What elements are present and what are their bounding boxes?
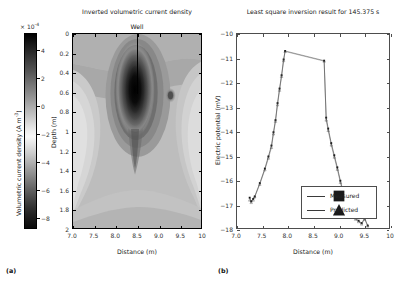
- line-plot-y-tick: [387, 34, 390, 35]
- contour-y-tick: [199, 152, 202, 153]
- line-plot-x-tick: [365, 226, 366, 229]
- legend-label-measured: Measured: [330, 192, 359, 199]
- line-plot-y-tick: [237, 132, 240, 133]
- line-plot-y-tick-label: −17: [216, 201, 233, 208]
- well-line: [137, 33, 138, 94]
- line-plot-x-tick: [314, 34, 315, 37]
- contour-y-tick: [199, 73, 202, 74]
- panel-a-title: Inverted volumetric current density: [82, 8, 192, 15]
- contour-x-tick: [95, 34, 96, 37]
- contour-y-tick-label: 0.6: [55, 88, 69, 95]
- line-plot-y-tick: [387, 181, 390, 182]
- contour-x-tick-label: 9.0: [154, 232, 164, 239]
- contour-y-tick: [199, 132, 202, 133]
- contour-x-tick-label: 7.5: [89, 232, 99, 239]
- line-plot-axes: Measured Predicted: [236, 33, 390, 229]
- contour-y-tick: [73, 152, 76, 153]
- contour-y-tick: [73, 191, 76, 192]
- line-plot-x-tick: [340, 226, 341, 229]
- line-plot-x-tick: [263, 34, 264, 37]
- line-plot-x-tick: [314, 226, 315, 229]
- line-plot-y-tick: [387, 132, 390, 133]
- panel-b-title: Least square inversion result for 145.37…: [247, 8, 380, 15]
- contour-y-tick-label: 0.4: [55, 69, 69, 76]
- line-plot-x-tick: [237, 226, 238, 229]
- contour-y-tick: [199, 34, 202, 35]
- line-plot-x-tick-label: 9.5: [360, 232, 370, 239]
- contour-y-tick: [73, 93, 76, 94]
- well-label: Well: [131, 23, 144, 30]
- contour-y-tick-label: 2: [55, 226, 69, 233]
- line-plot-x-tick: [391, 226, 392, 229]
- line-plot-y-tick: [387, 157, 390, 158]
- colorbar-tick-label: −4: [41, 158, 50, 165]
- line-plot-x-tick-label: 7.5: [257, 232, 267, 239]
- line-plot-y-tick: [237, 157, 240, 158]
- line-plot-y-tick-label: −11: [216, 54, 233, 61]
- data-point-measured: [249, 197, 251, 199]
- contour-x-tick: [138, 34, 139, 37]
- legend-label-predicted: Predicted: [330, 206, 358, 213]
- contour-y-tick: [199, 54, 202, 55]
- contour-y-tick-label: 1: [55, 128, 69, 135]
- contour-y-tick: [199, 112, 202, 113]
- panel-b-caption: (b): [218, 267, 228, 275]
- contour-y-tick: [73, 210, 76, 211]
- contour-y-tick: [199, 93, 202, 94]
- legend-item-measured: Measured: [302, 189, 376, 203]
- colorbar-tick: [37, 190, 40, 191]
- line-plot-x-tick-label: 10: [386, 232, 394, 239]
- contour-y-tick: [199, 210, 202, 211]
- contour-y-tick-label: 1.2: [55, 147, 69, 154]
- contour-y-axis-label: Depth (m): [50, 116, 57, 148]
- contour-y-tick-label: 0.2: [55, 49, 69, 56]
- line-plot-x-tick-label: 8.0: [283, 232, 293, 239]
- colorbar-multiplier: × 10-4: [20, 22, 39, 30]
- colorbar-tick: [37, 50, 40, 51]
- contour-y-tick: [199, 191, 202, 192]
- colorbar-axis-label: Volumetric current density (A m-3): [14, 110, 22, 216]
- contour-x-tick-label: 10: [198, 232, 206, 239]
- line-plot-y-tick: [237, 83, 240, 84]
- contour-y-tick: [73, 171, 76, 172]
- series-line-predicted: [250, 51, 285, 202]
- line-plot-x-tick: [288, 226, 289, 229]
- line-plot-y-tick: [387, 108, 390, 109]
- colorbar-tick-label: −8: [41, 214, 50, 221]
- contour-x-tick: [181, 34, 182, 37]
- contour-x-tick: [95, 226, 96, 229]
- contour-x-tick-label: 8.5: [132, 232, 142, 239]
- colorbar-tick-label: 4: [41, 46, 45, 53]
- line-plot-y-tick: [237, 59, 240, 60]
- contour-x-axis-label: Distance (m): [117, 248, 157, 255]
- colorbar-gradient: [24, 33, 37, 229]
- line-plot-y-tick: [387, 230, 390, 231]
- colorbar-tick-label: −6: [41, 186, 50, 193]
- colorbar: 420−2−4−6−8: [24, 33, 37, 229]
- line-plot-x-tick: [365, 34, 366, 37]
- line-plot-y-tick: [237, 34, 240, 35]
- line-plot-y-tick: [237, 108, 240, 109]
- contour-y-tick: [73, 34, 76, 35]
- colorbar-tick: [37, 106, 40, 107]
- contour-y-tick: [73, 132, 76, 133]
- line-plot-x-tick: [263, 226, 264, 229]
- contour-x-tick: [116, 34, 117, 37]
- line-plot-y-tick: [387, 206, 390, 207]
- colorbar-tick: [37, 134, 40, 135]
- contour-y-tick: [73, 112, 76, 113]
- line-plot-x-tick: [340, 34, 341, 37]
- line-plot-y-axis-label: Electric potential (mV): [214, 96, 221, 165]
- line-plot-x-tick: [391, 34, 392, 37]
- line-plot-y-tick-label: −16: [216, 177, 233, 184]
- line-plot-y-tick-label: −10: [216, 30, 233, 37]
- series-line-measured: [250, 51, 285, 201]
- colorbar-tick-label: −2: [41, 130, 50, 137]
- legend: Measured Predicted: [301, 186, 377, 219]
- contour-y-tick-label: 0: [55, 30, 69, 37]
- line-plot-y-tick: [237, 181, 240, 182]
- contour-x-tick: [116, 226, 117, 229]
- contour-y-tick-label: 1.8: [55, 206, 69, 213]
- line-plot-y-tick-label: −12: [216, 79, 233, 86]
- contour-x-tick-label: 9.5: [176, 232, 186, 239]
